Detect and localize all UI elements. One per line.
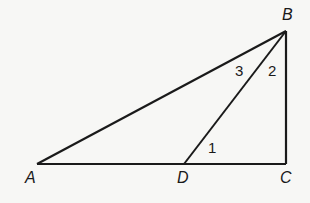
segment-bd xyxy=(184,31,286,164)
angle-label-1: 1 xyxy=(208,140,216,155)
vertex-label-a: A xyxy=(25,170,36,186)
vertex-label-d: D xyxy=(177,170,189,186)
triangle-diagram xyxy=(0,0,310,203)
angle-label-3: 3 xyxy=(235,63,243,78)
vertex-label-c: C xyxy=(280,170,292,186)
angle-label-2: 2 xyxy=(268,63,276,78)
vertex-label-b: B xyxy=(282,7,293,23)
segment-ab xyxy=(37,31,286,164)
